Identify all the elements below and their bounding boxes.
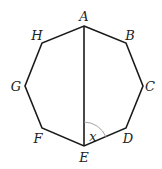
diagram-svg: A B C D E F G H x xyxy=(0,0,162,169)
vertex-label-F: F xyxy=(32,131,43,146)
vertex-label-H: H xyxy=(30,28,43,43)
vertex-label-D: D xyxy=(122,131,134,146)
vertex-label-A: A xyxy=(78,9,88,24)
octagon-diagram: A B C D E F G H x xyxy=(0,0,162,169)
vertex-label-C: C xyxy=(145,79,155,94)
vertex-label-E: E xyxy=(78,150,89,165)
angle-label-x: x xyxy=(89,129,97,144)
vertex-label-G: G xyxy=(11,79,21,94)
vertex-label-B: B xyxy=(124,28,135,43)
